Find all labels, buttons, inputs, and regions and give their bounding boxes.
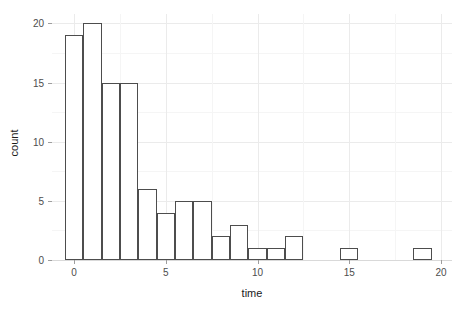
x-tick-mark <box>74 260 75 264</box>
x-axis-line <box>52 260 452 261</box>
y-tick-label: 5 <box>38 195 44 206</box>
gridline-minor-vertical <box>395 14 396 260</box>
histogram-bar <box>175 201 193 260</box>
x-tick-mark <box>258 260 259 264</box>
histogram-bar <box>120 83 138 260</box>
histogram-bar <box>413 248 431 260</box>
y-axis-title: count <box>8 93 20 193</box>
y-tick-mark <box>48 83 52 84</box>
gridline-major-horizontal <box>52 23 452 24</box>
y-tick-mark <box>48 142 52 143</box>
histogram-bar <box>193 201 211 260</box>
x-tick-mark <box>349 260 350 264</box>
histogram-bar <box>212 236 230 260</box>
x-tick-label: 0 <box>71 267 77 278</box>
gridline-minor-vertical <box>303 14 304 260</box>
x-tick-label: 15 <box>344 267 355 278</box>
gridline-major-vertical <box>441 14 442 260</box>
y-tick-mark <box>48 201 52 202</box>
gridline-major-vertical <box>258 14 259 260</box>
y-tick-mark <box>48 23 52 24</box>
y-tick-label: 10 <box>33 136 44 147</box>
x-tick-mark <box>166 260 167 264</box>
histogram-bar <box>102 83 120 260</box>
gridline-minor-vertical <box>212 14 213 260</box>
histogram-bar <box>340 248 358 260</box>
histogram-bar <box>138 189 156 260</box>
x-tick-label: 20 <box>435 267 446 278</box>
y-tick-label: 20 <box>33 18 44 29</box>
histogram-bar <box>230 225 248 260</box>
y-tick-label: 15 <box>33 77 44 88</box>
x-tick-label: 5 <box>163 267 169 278</box>
histogram-bar <box>285 236 303 260</box>
gridline-minor-horizontal <box>52 53 452 54</box>
histogram-bar <box>248 248 266 260</box>
histogram-bar <box>83 23 101 260</box>
histogram-bar <box>157 213 175 260</box>
histogram-chart: 05101520 05101520 time count <box>0 0 466 316</box>
x-tick-label: 10 <box>252 267 263 278</box>
plot-panel <box>52 14 452 260</box>
histogram-bar <box>65 35 83 260</box>
histogram-bar <box>267 248 285 260</box>
x-tick-mark <box>441 260 442 264</box>
gridline-major-vertical <box>349 14 350 260</box>
x-axis-title: time <box>52 287 452 299</box>
y-tick-mark <box>48 260 52 261</box>
y-tick-label: 0 <box>38 255 44 266</box>
